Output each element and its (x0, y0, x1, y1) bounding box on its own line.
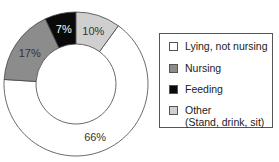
legend-swatch (169, 64, 178, 73)
chart-legend: Lying, not nursing Nursing Feeding Other… (159, 33, 273, 128)
legend-item-nursing: Nursing (169, 62, 221, 74)
legend-item-other: Other(Stand, drink, sit) (169, 104, 264, 128)
legend-label: Lying, not nursing (185, 40, 268, 52)
slice-label: 7% (56, 23, 72, 35)
legend-item-feeding: Feeding (169, 83, 223, 95)
slice-label: 17% (19, 47, 41, 59)
legend-label: Feeding (185, 83, 223, 95)
legend-item-lying: Lying, not nursing (169, 40, 268, 52)
slice-label: 10% (82, 25, 104, 37)
legend-swatch (169, 85, 178, 94)
donut-chart: 66%17%7%10% (0, 0, 160, 162)
legend-label: Other(Stand, drink, sit) (185, 104, 264, 128)
slice-label: 66% (84, 131, 106, 143)
legend-label: Nursing (185, 62, 221, 74)
legend-swatch (169, 106, 178, 115)
legend-swatch (169, 42, 178, 51)
